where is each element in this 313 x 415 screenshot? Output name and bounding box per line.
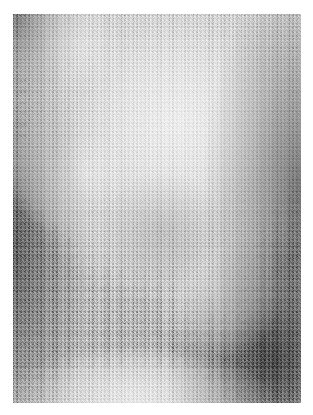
base-luminance-field — [13, 14, 301, 403]
blob-bottom-band — [42, 349, 226, 403]
texture-image — [13, 14, 301, 403]
grain-layer-d — [13, 14, 301, 403]
blob-lower-right-faint — [174, 247, 255, 333]
grain-clump-layer — [13, 14, 301, 403]
grain-layer-a — [13, 14, 301, 403]
blob-central-lobe — [82, 22, 272, 217]
blob-left-mid-spot — [42, 135, 128, 213]
image-viewport — [0, 0, 313, 415]
edge-vignette — [13, 14, 301, 403]
grain-layer-c — [13, 14, 301, 403]
blob-upper-left-speckle — [30, 14, 128, 88]
grain-layer-b — [13, 14, 301, 403]
